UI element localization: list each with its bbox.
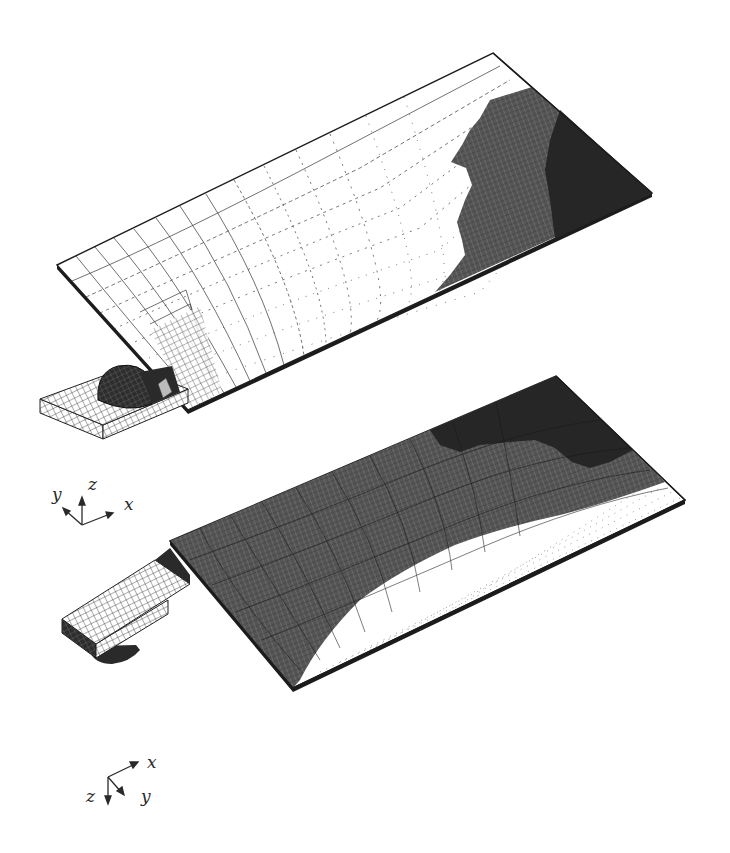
axis-label-z-bottom: z (85, 786, 96, 806)
axis-label-z-top: z (87, 474, 98, 494)
axis-label-x-top: x (124, 494, 134, 514)
top-tab (40, 365, 188, 439)
axes-triad-bottom (105, 762, 138, 804)
bottom-view-figure: x z y (62, 376, 685, 806)
axes-triad-top (63, 497, 113, 525)
axis-label-y-bottom: y (140, 786, 151, 806)
axis-label-x-bottom: x (147, 752, 157, 772)
bottom-tab (62, 548, 190, 664)
figure-canvas: y z x (0, 0, 730, 853)
axis-label-y-top: y (51, 484, 62, 504)
